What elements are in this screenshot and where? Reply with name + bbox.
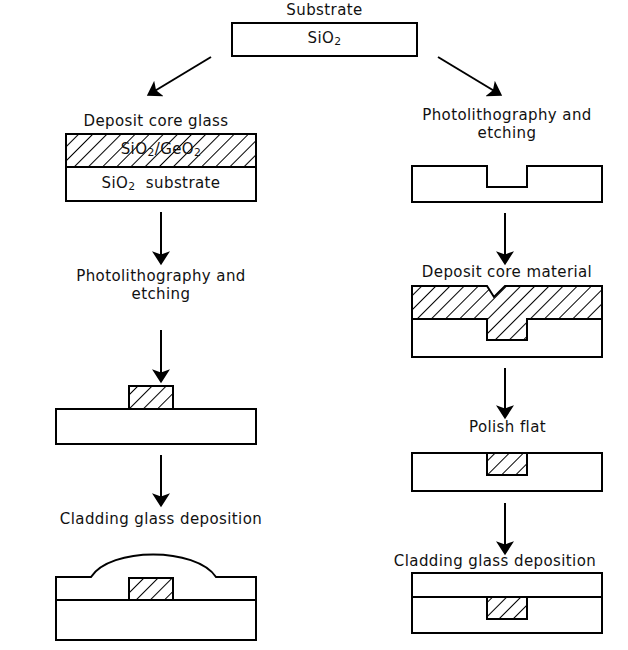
right-step4-label: Cladding glass deposition — [362, 553, 628, 571]
left-core-ridge — [129, 386, 173, 409]
right-final-cladding — [412, 573, 602, 597]
right-step3-label: Polish flat — [400, 419, 615, 437]
left-substrate-layer-label: SiO2 substrate — [66, 175, 256, 194]
left-step3-label: Cladding glass deposition — [16, 511, 306, 529]
right-step2-label: Deposit core material — [382, 264, 628, 282]
substrate-box-label: SiO2 — [232, 30, 417, 49]
left-final-substrate — [56, 600, 256, 640]
left-core-layer-label: SiO2/GeO2 — [66, 141, 256, 160]
right-final-core — [487, 597, 527, 619]
right-embedded-core — [487, 453, 527, 475]
substrate-title: Substrate — [232, 2, 417, 20]
left-step2-label: Photolithography and etching — [36, 268, 286, 303]
branch-arrow-left — [153, 57, 211, 92]
right-grooved-substrate — [412, 166, 602, 202]
left-step1-label: Deposit core glass — [56, 113, 256, 131]
left-etched-substrate — [56, 409, 256, 444]
right-step1-label: Photolithography and etching — [382, 107, 628, 142]
left-final-core — [129, 578, 173, 600]
branch-arrow-right — [438, 57, 496, 92]
